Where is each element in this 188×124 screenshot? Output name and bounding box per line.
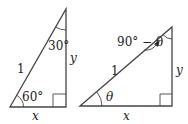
right-vertical-label: y [175, 63, 183, 77]
left-horizontal-label: x [32, 109, 39, 123]
right-right-angle-marker [160, 94, 172, 106]
left-right-angle-marker [53, 94, 66, 107]
right-hypotenuse-label: 1 [111, 64, 119, 78]
left-hypotenuse-label: 1 [17, 62, 25, 76]
right-horizontal-label: x [123, 109, 130, 123]
right-top-angle-label: 90° − θ [117, 35, 163, 49]
left-vertical-label: y [69, 51, 77, 65]
left-bottom-angle-label: 60° [22, 90, 43, 104]
left-triangle: 60° 30° 1 y x [10, 9, 77, 123]
diagram-canvas: 60° 30° 1 y x 90° − θ θ 1 y x [0, 0, 188, 124]
left-top-angle-arc [56, 27, 66, 30]
right-bottom-angle-label: θ [106, 90, 114, 104]
right-triangle: 90° − θ θ 1 y x [80, 27, 183, 123]
right-top-angle-arc [163, 35, 172, 39]
right-bottom-angle-arc [97, 92, 102, 106]
left-top-angle-label: 30° [48, 39, 69, 53]
